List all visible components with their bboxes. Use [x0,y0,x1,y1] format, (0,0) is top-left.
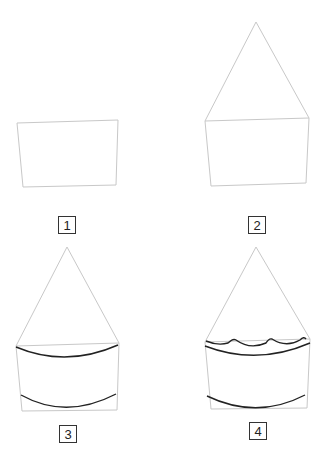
step-4-figure [205,247,310,409]
step-label-3: 3 [59,425,77,443]
step-3-figure [16,247,119,411]
step-4-triangle [205,247,310,342]
step-label-2: 2 [248,216,266,234]
step-label-1: 1 [58,216,76,234]
step-4-bottom-curve [207,395,305,408]
step-1-rectangle [17,120,118,187]
step-3-triangle [16,247,119,346]
step-3-bottom-curve [21,394,116,407]
step-3-top-curve [16,345,118,357]
step-label-4: 4 [249,422,267,440]
drawing-steps-diagram [0,0,322,461]
step-2-rectangle [205,118,309,186]
step-1-figure [17,120,118,187]
step-2-figure [205,22,309,186]
step-2-triangle [205,22,309,121]
